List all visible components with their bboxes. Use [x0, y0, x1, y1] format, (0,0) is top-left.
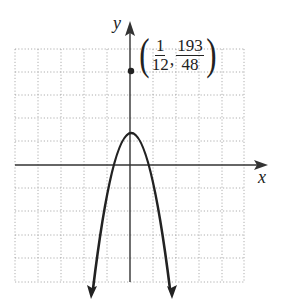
comma: , — [170, 49, 175, 70]
vertex-x-fraction: 1 12 — [152, 37, 169, 74]
x-axis-label: x — [258, 168, 266, 186]
vertex-annotation: ( 1 12 , 193 48 ) — [137, 33, 218, 77]
open-paren: ( — [139, 33, 149, 77]
vertex-y-fraction: 193 48 — [176, 37, 204, 74]
vertex-y-denominator: 48 — [181, 56, 198, 74]
vertex-x-denominator: 12 — [152, 56, 169, 74]
vertex-point — [128, 68, 134, 74]
curve-right-arrow-icon — [167, 285, 177, 299]
y-axis-label: y — [113, 14, 121, 32]
vertex-y-numerator: 193 — [176, 37, 204, 56]
close-paren: ) — [206, 33, 216, 77]
vertex-x-numerator: 1 — [155, 37, 166, 56]
parabola-curve — [93, 133, 170, 289]
